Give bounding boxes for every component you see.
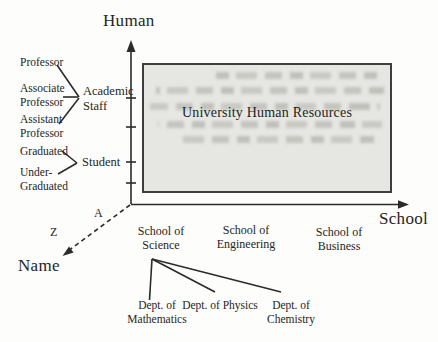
box-title: University Human Resources (144, 105, 390, 121)
human-axis-arrowhead-icon (127, 40, 136, 52)
dept-chemistry-label: Dept. of Chemistry (251, 299, 331, 326)
diagram-canvas: University Human Resources Human School … (0, 0, 438, 342)
student-label: Student (82, 155, 120, 170)
dept-chemistry-connector-line (152, 259, 281, 292)
school-of-science-label: School of Science (121, 224, 201, 252)
name-axis-a-marker: A (94, 206, 103, 221)
dept-physics-label: Dept. of Physics (180, 299, 260, 313)
scan-bleed-texture (216, 72, 384, 79)
school-axis-label: School (379, 209, 428, 229)
dept-physics-connector-line (152, 259, 215, 292)
university-hr-box: University Human Resources (142, 63, 392, 193)
name-axis-label: Name (18, 256, 60, 276)
human-axis-label: Human (103, 11, 155, 31)
scan-bleed-texture (178, 136, 376, 143)
scan-bleed-texture (158, 121, 382, 128)
associate-professor-label: Associate Professor (20, 82, 78, 109)
professor-label: Professor (20, 56, 63, 68)
school-axis-arrowhead-icon (398, 200, 409, 209)
name-axis-z-marker: Z (50, 225, 57, 240)
dept-mathematics-connector-line (150, 259, 153, 300)
scan-bleed-texture (156, 87, 384, 94)
academic-staff-label: Academic Staff (83, 84, 147, 114)
school-of-engineering-label: School of Engineering (201, 223, 291, 251)
under-graduated-label: Under-Graduated (20, 166, 82, 193)
assistant-professor-label: Assistant Professor (20, 113, 78, 140)
school-of-business-label: School of Business (299, 225, 379, 253)
graduated-label: Graduated (20, 145, 68, 157)
